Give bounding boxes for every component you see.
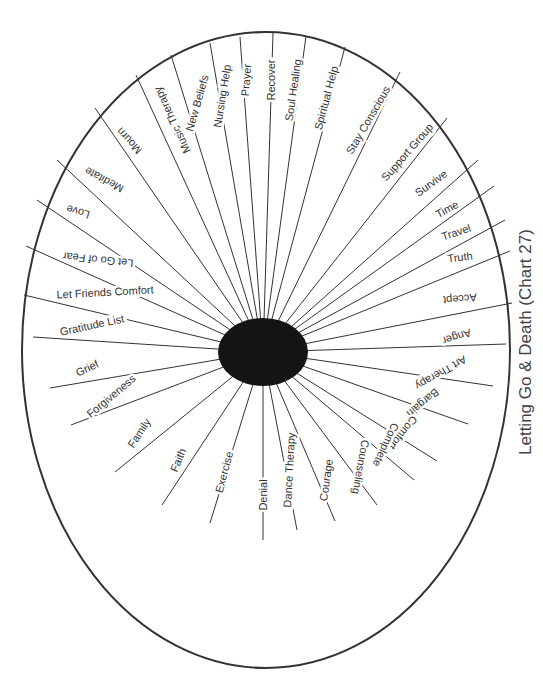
spoke-label: Soul Healing [283, 58, 304, 121]
spoke-line [263, 160, 478, 352]
spoke-label: Exercise [213, 450, 236, 494]
spoke-label: Travel [440, 222, 472, 243]
spoke-label: Time [434, 198, 461, 220]
spoke-label: Survive [413, 167, 450, 198]
letting-go-death-wheel-chart: RecoverSoul HealingSpiritual HelpStay Co… [0, 0, 543, 693]
spoke-label: Grief [74, 357, 102, 378]
spoke-line [136, 75, 263, 352]
spoke-label: Prayer [239, 63, 253, 96]
spoke-label: Love [65, 203, 91, 221]
spoke-label: Mourn [114, 126, 144, 157]
spoke-label: Anger [441, 327, 473, 348]
spoke-label: Recover [265, 59, 277, 100]
spoke-label: Truth [447, 250, 474, 265]
spoke-label: Art Therapy [413, 353, 469, 392]
spoke-label: Let Friends Comfort [56, 283, 154, 300]
spoke-label: Support Group [379, 121, 435, 183]
spoke-label: Dance Therapy [281, 432, 297, 508]
spoke-label: Gratitude List [59, 312, 125, 337]
spoke-label: Denial [257, 479, 269, 510]
spoke-label: Counseling [350, 439, 371, 495]
spoke-label: Nursing Help [211, 64, 233, 129]
spoke-label: Stay Conscious [344, 83, 393, 156]
spoke-label: Spiritual Help [312, 65, 341, 131]
spoke-label: Courage [317, 458, 335, 501]
spoke-label: Accept [443, 292, 478, 307]
spoke-label: Meditate [83, 165, 126, 195]
chart-title: Letting Go & Death (Chart 27) [516, 229, 535, 455]
center-hub [218, 318, 308, 386]
spoke-label: New Beliefs [183, 73, 211, 133]
spoke-line [263, 186, 494, 352]
spoke-label: Forgiveness [84, 372, 138, 420]
labels-group: RecoverSoul HealingSpiritual HelpStay Co… [56, 58, 477, 510]
